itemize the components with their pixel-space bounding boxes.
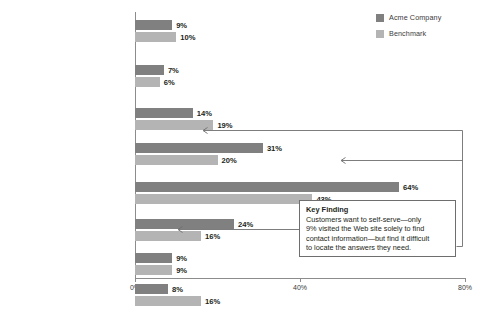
bar-acme-company (135, 219, 234, 229)
callout-line: to locate the answers they need. (306, 243, 449, 252)
bar-value-label: 16% (205, 297, 220, 306)
bar-benchmark (135, 265, 172, 275)
callout-body: Customers want to self-serve—only 9% vis… (306, 215, 449, 253)
callout-line: Customers want to self-serve—only (306, 215, 449, 224)
callout-line: 9% visited the Web site solely to find (306, 224, 449, 233)
x-tick (465, 278, 466, 282)
bar-value-label: 31% (267, 144, 282, 153)
bar-acme-company (135, 284, 168, 294)
bar-acme-company (135, 108, 193, 118)
bar-chart: Acme Company Benchmark 0%40%80% 9%10%7%6… (0, 0, 486, 315)
bar-benchmark (135, 296, 201, 306)
bar-value-label: 10% (180, 33, 195, 42)
bar-value-label: 9% (176, 21, 187, 30)
callout-line: contact information—but find it difficul… (306, 234, 449, 243)
bar-value-label: 8% (172, 285, 183, 294)
key-finding-callout: Key Finding Customers want to self-serve… (299, 200, 456, 257)
bar-value-label: 20% (222, 156, 237, 165)
bar-benchmark (135, 194, 312, 204)
bar-value-label: 16% (205, 232, 220, 241)
bar-acme-company (135, 20, 172, 30)
bar-benchmark (135, 77, 160, 87)
bar-benchmark (135, 231, 201, 241)
x-tick (135, 278, 136, 282)
bar-acme-company (135, 143, 263, 153)
x-tick (300, 278, 301, 282)
bar-acme-company (135, 253, 172, 263)
bar-value-label: 6% (164, 78, 175, 87)
bar-acme-company (135, 182, 399, 192)
bar-value-label: 19% (217, 121, 232, 130)
bar-acme-company (135, 65, 164, 75)
bar-value-label: 9% (176, 254, 187, 263)
callout-title: Key Finding (306, 205, 449, 214)
bar-value-label: 14% (197, 109, 212, 118)
bar-value-label: 64% (403, 183, 418, 192)
bar-value-label: 9% (176, 266, 187, 275)
bar-benchmark (135, 155, 218, 165)
bar-value-label: 24% (238, 220, 253, 229)
bar-value-label: 7% (168, 66, 179, 75)
x-tick-label: 80% (458, 284, 472, 291)
bar-benchmark (135, 120, 213, 130)
bar-benchmark (135, 32, 176, 42)
x-tick-label: 40% (293, 284, 307, 291)
